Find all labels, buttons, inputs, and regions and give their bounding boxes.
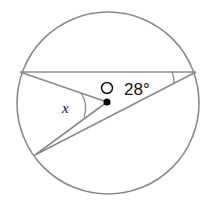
angle-28-arc bbox=[172, 72, 174, 83]
circle-diagram: 28° x bbox=[0, 0, 223, 204]
angle-label: 28° bbox=[124, 80, 150, 99]
radius-oa bbox=[20, 72, 107, 102]
radius-oc bbox=[35, 102, 107, 155]
center-label-o-glyph bbox=[102, 83, 113, 94]
unknown-angle-label: x bbox=[61, 100, 69, 116]
angle-x-arc bbox=[81, 93, 86, 117]
chord-bc bbox=[35, 72, 196, 155]
center-dot bbox=[104, 99, 111, 106]
